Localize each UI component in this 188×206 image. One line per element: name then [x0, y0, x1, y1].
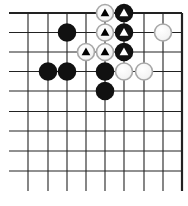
- black-stone[interactable]: [96, 82, 115, 101]
- white-stone[interactable]: [97, 5, 114, 22]
- white-stone[interactable]: [97, 24, 114, 41]
- white-stone[interactable]: [97, 44, 114, 61]
- black-stone[interactable]: [58, 23, 77, 42]
- white-stone[interactable]: [116, 63, 133, 80]
- go-board[interactable]: [0, 0, 188, 206]
- white-stone[interactable]: [136, 63, 153, 80]
- black-stone[interactable]: [115, 4, 134, 23]
- black-stone[interactable]: [58, 62, 77, 81]
- black-stone[interactable]: [115, 43, 134, 62]
- white-stone[interactable]: [155, 24, 172, 41]
- black-stone[interactable]: [39, 62, 58, 81]
- white-stone[interactable]: [78, 44, 95, 61]
- black-stone[interactable]: [96, 62, 115, 81]
- black-stone[interactable]: [115, 23, 134, 42]
- board-grid: [9, 13, 182, 191]
